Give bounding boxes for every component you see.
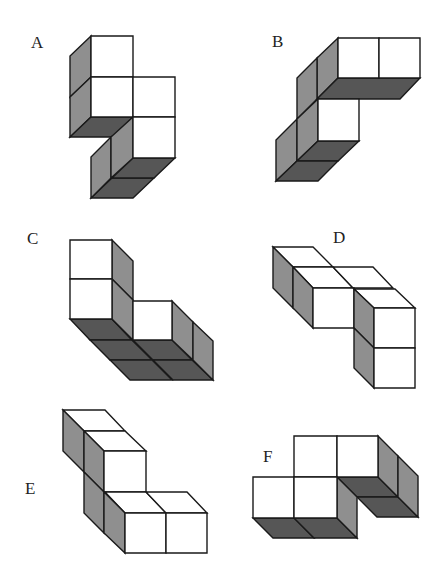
cube-face-white — [253, 477, 294, 518]
figure-label-b: B — [272, 33, 283, 50]
cube-face-white — [318, 99, 359, 141]
figure-b — [276, 38, 420, 181]
cube-face-white — [379, 38, 420, 78]
cube-figures-drawing — [0, 0, 440, 578]
figure-c — [70, 240, 213, 380]
cube-face-white — [337, 436, 378, 477]
figure-e — [63, 410, 207, 553]
cube-face-white — [70, 279, 112, 319]
figure-label-c: C — [27, 230, 38, 247]
figure-a — [70, 36, 175, 198]
cube-face-white — [91, 36, 133, 77]
figure-f — [253, 436, 418, 538]
cube-face-white — [104, 451, 146, 492]
cube-face-white — [374, 348, 415, 388]
figure-label-f: F — [263, 448, 272, 465]
cube-face-white — [313, 288, 354, 328]
cube-face-white — [133, 117, 175, 158]
cube-figures-canvas: A B C D E F — [0, 0, 440, 578]
cube-face-white — [133, 77, 175, 117]
cube-face-white — [294, 477, 337, 518]
cube-face-white — [70, 240, 112, 279]
cube-face-white — [294, 436, 337, 477]
cube-face-white — [91, 77, 133, 117]
cube-face-white — [133, 301, 172, 340]
figure-label-e: E — [25, 480, 35, 497]
cube-face-white — [166, 513, 207, 553]
figure-label-d: D — [333, 229, 345, 246]
cube-face-white — [338, 38, 379, 78]
figure-label-a: A — [31, 34, 43, 51]
figure-d — [273, 247, 415, 388]
cube-face-white — [374, 308, 415, 348]
cube-face-white — [125, 513, 166, 553]
